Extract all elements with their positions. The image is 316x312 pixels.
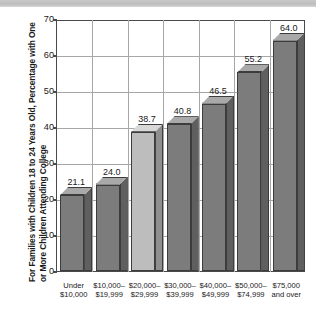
bar <box>202 96 234 271</box>
y-axis-tick-mark <box>53 127 57 128</box>
x-label-line-1: $40,000– <box>200 281 232 290</box>
gridline-vertical <box>92 20 93 272</box>
y-axis-tick-label: 20 <box>30 195 54 204</box>
bar-side-face <box>261 64 269 271</box>
x-label-line-2: $10,000 <box>60 290 87 299</box>
x-label-line-1: $50,000– <box>235 281 267 290</box>
bar-value-label: 21.1 <box>54 177 98 187</box>
x-label-line-2: $49,999 <box>202 290 229 299</box>
x-label-line-2: $19,999 <box>95 290 122 299</box>
x-label-line-1: Under <box>63 281 84 290</box>
y-axis-tick-label: 40 <box>30 123 54 132</box>
y-axis-tick-mark <box>53 163 57 164</box>
bar <box>167 116 199 271</box>
bar <box>273 33 305 271</box>
bar <box>237 64 269 271</box>
bar-value-label: 55.2 <box>231 54 275 64</box>
y-axis-tick-mark <box>53 19 57 20</box>
gridline-vertical <box>128 20 129 272</box>
x-label-line-1: $30,000– <box>164 281 196 290</box>
bar-value-label: 46.5 <box>196 86 240 96</box>
y-axis-tick-label: 0 <box>30 267 54 276</box>
bar <box>131 124 163 271</box>
bar-side-face <box>84 187 92 271</box>
x-label-line-2: $74,999 <box>237 290 264 299</box>
bar-front-face <box>167 124 191 271</box>
bar-front-face <box>237 72 261 271</box>
bar-front-face <box>96 185 120 271</box>
bar-value-label: 64.0 <box>267 23 311 33</box>
bar-front-face <box>131 132 155 271</box>
y-axis-title-container: For Families with Children 18 to 24 Year… <box>2 14 28 282</box>
x-label-line-2: and over <box>271 290 301 299</box>
bar <box>60 187 92 271</box>
y-axis-tick-labels: 010203040506070 <box>28 0 54 312</box>
bar-side-face <box>226 96 234 271</box>
bar-chart: For Families with Children 18 to 24 Year… <box>0 0 316 312</box>
bar-value-label: 24.0 <box>90 167 134 177</box>
x-label-line-1: $10,000– <box>93 281 125 290</box>
y-axis-tick-label: 50 <box>30 87 54 96</box>
bar-side-face <box>191 116 199 271</box>
plot-area: 21.124.038.740.846.555.264.0 <box>56 20 304 272</box>
gridline-vertical <box>199 20 200 272</box>
gridline-vertical <box>163 20 164 272</box>
bar-side-face <box>155 124 163 271</box>
x-label-line-2: $29,999 <box>131 290 158 299</box>
y-axis-tick-mark <box>53 235 57 236</box>
y-axis-tick-mark <box>53 271 57 272</box>
y-axis-tick-label: 60 <box>30 51 54 60</box>
x-label-line-1: $20,000– <box>129 281 161 290</box>
x-label-line-2: $39,999 <box>166 290 193 299</box>
bar-front-face <box>202 104 226 271</box>
x-label-line-1: $75,000 <box>273 281 300 290</box>
bar-side-face <box>297 33 305 271</box>
y-axis-tick-label: 10 <box>30 231 54 240</box>
y-axis-tick-mark <box>53 91 57 92</box>
x-axis-tick-label: $75,000and over <box>265 281 308 300</box>
x-axis-tick-labels: Under$10,000$10,000–$19,999$20,000–$29,9… <box>56 281 304 307</box>
y-axis-tick-label: 30 <box>30 159 54 168</box>
y-axis-tick-mark <box>53 55 57 56</box>
bar <box>96 177 128 271</box>
bar-side-face <box>120 177 128 271</box>
y-axis-tick-label: 70 <box>30 15 54 24</box>
bar-front-face <box>60 195 84 271</box>
bar-front-face <box>273 41 297 271</box>
bar-value-label: 40.8 <box>161 106 205 116</box>
y-axis-tick-mark <box>53 199 57 200</box>
